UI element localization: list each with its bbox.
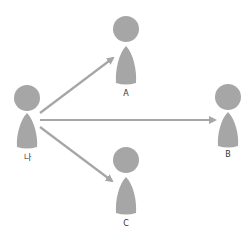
person-icon-b xyxy=(215,84,241,148)
label-c: C xyxy=(123,219,129,228)
person-icon-me xyxy=(14,85,40,149)
diagram-canvas xyxy=(0,0,252,236)
label-me: 나 xyxy=(24,151,31,162)
arrow-me-to-c xyxy=(40,127,112,181)
label-a: A xyxy=(123,89,128,98)
person-icon-c xyxy=(113,147,139,215)
arrow-me-to-a xyxy=(40,58,113,113)
person-icon-a xyxy=(113,16,139,85)
label-b: B xyxy=(225,150,231,159)
